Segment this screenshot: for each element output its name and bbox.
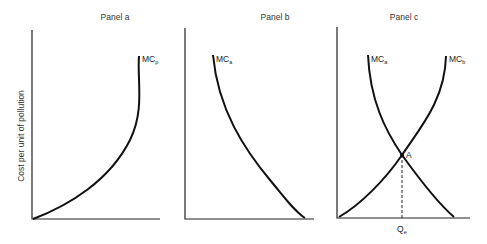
mca-label-b: MCa	[216, 54, 233, 65]
mca-label-c: MCa	[371, 54, 388, 65]
panel-a-axes	[32, 30, 160, 219]
qe-label: Qe	[397, 224, 407, 235]
point-a-marker	[400, 153, 404, 157]
point-a-label: A	[406, 150, 412, 160]
panel-c: Panel c A MCa MCb Qe	[337, 12, 470, 235]
mcb-label-c: MCb	[449, 54, 465, 65]
mca-curve-c	[368, 55, 454, 217]
mcp-curve	[33, 56, 139, 219]
panel-b-title: Panel b	[261, 12, 290, 22]
panel-b-axes	[185, 28, 314, 219]
diagram-canvas: Panel a Cost per unit of pollution MCp P…	[0, 0, 487, 244]
mcp-label: MCp	[142, 54, 158, 65]
panel-a-title: Panel a	[101, 12, 130, 22]
mca-curve-b	[213, 55, 305, 218]
panel-b: Panel b MCa	[185, 12, 314, 219]
panel-a: Panel a Cost per unit of pollution MCp	[16, 12, 160, 219]
y-axis-label: Cost per unit of pollution	[16, 90, 26, 182]
panel-c-title: Panel c	[390, 12, 419, 22]
